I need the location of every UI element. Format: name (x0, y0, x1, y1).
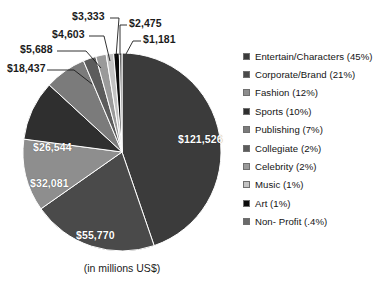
legend-item-label: Art (1%) (255, 198, 291, 209)
legend-swatch-icon (243, 145, 250, 152)
legend-swatch-icon (243, 53, 250, 60)
legend-swatch-icon (243, 71, 250, 78)
chart-canvas: $121,526 $55,770 $32,081 $26,544 $18,437… (0, 0, 389, 285)
legend-swatch-icon (243, 108, 250, 115)
callout-value-art: $2,475 (129, 17, 162, 29)
legend-item-label: Music (1%) (255, 179, 303, 190)
chart-caption: (in millions US$) (0, 262, 244, 274)
callout-value-collegiate: $5,688 (20, 43, 53, 55)
legend-item-label: Corporate/Brand (21%) (255, 69, 355, 80)
legend-item-label: Sports (10%) (255, 106, 312, 117)
legend-item-art[interactable]: Art (1%) (243, 194, 387, 212)
callout-value-celebrity: $4,603 (52, 28, 85, 40)
legend-swatch-icon (243, 200, 250, 207)
callout-value-music: $3,333 (72, 10, 105, 22)
legend-item-collegiate[interactable]: Collegiate (2%) (243, 139, 387, 157)
legend-item-label: Entertain/Characters (45%) (255, 51, 373, 62)
slice-value-sports: $26,544 (33, 141, 72, 153)
slice-value-entertain-characters: $121,526 (178, 133, 223, 145)
leader-line-art (120, 25, 127, 55)
chart-legend: Entertain/Characters (45%) Corporate/Bra… (243, 47, 387, 231)
legend-swatch-icon (243, 126, 250, 133)
legend-item-fashion[interactable]: Fashion (12%) (243, 84, 387, 102)
legend-item-label: Collegiate (2%) (255, 143, 321, 154)
legend-item-entertain-characters[interactable]: Entertain/Characters (45%) (243, 47, 387, 65)
legend-swatch-icon (243, 181, 250, 188)
legend-item-label: Non- Profit (.4%) (255, 216, 327, 227)
legend-item-label: Celebrity (2%) (255, 161, 316, 172)
legend-item-sports[interactable]: Sports (10%) (243, 102, 387, 120)
legend-item-label: Publishing (7%) (255, 124, 323, 135)
legend-swatch-icon (243, 163, 250, 170)
legend-item-music[interactable]: Music (1%) (243, 176, 387, 194)
slice-value-fashion: $32,081 (30, 177, 69, 189)
legend-item-non-profit[interactable]: Non- Profit (.4%) (243, 213, 387, 231)
legend-swatch-icon (243, 218, 250, 225)
callout-value-publishing: $18,437 (7, 62, 46, 74)
slice-value-corporate-brand: $55,770 (76, 229, 115, 241)
legend-item-publishing[interactable]: Publishing (7%) (243, 121, 387, 139)
callout-value-non-profit: $1,181 (143, 33, 176, 45)
legend-item-label: Fashion (12%) (255, 87, 318, 98)
legend-item-corporate-brand[interactable]: Corporate/Brand (21%) (243, 65, 387, 83)
legend-swatch-icon (243, 89, 250, 96)
legend-item-celebrity[interactable]: Celebrity (2%) (243, 157, 387, 175)
